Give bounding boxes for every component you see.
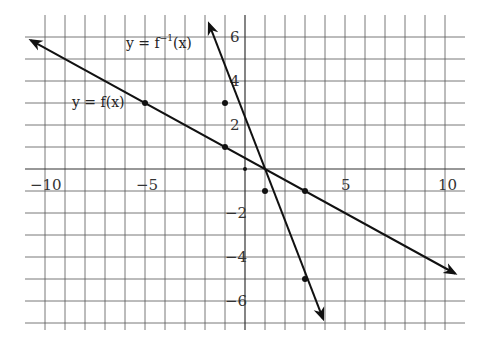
data-point xyxy=(142,100,148,106)
data-point xyxy=(302,276,308,282)
f-line xyxy=(31,40,455,273)
y-tick-label: 2 xyxy=(230,116,240,134)
x-tick-label: 5 xyxy=(341,176,351,194)
y-tick-label: −4 xyxy=(225,248,247,266)
data-point xyxy=(222,100,228,106)
data-point xyxy=(302,188,308,194)
f-label: y = f(x) xyxy=(71,94,125,110)
x-tick-label: 10 xyxy=(438,176,457,194)
data-point xyxy=(243,167,247,171)
data-point xyxy=(222,144,228,150)
y-tick-label: −6 xyxy=(225,292,247,310)
coordinate-plane: −10 −5 5 10 6 4 2 −2 −4 −6 y = f(x) y = … xyxy=(0,0,485,343)
data-point xyxy=(262,188,268,194)
x-tick-label: −5 xyxy=(136,176,158,194)
y-tick-label: 6 xyxy=(230,28,240,46)
f-inverse-label: y = f−1(x) xyxy=(125,33,192,51)
y-tick-label: −2 xyxy=(225,204,247,222)
f-inverse-line xyxy=(209,24,323,319)
x-tick-label: −10 xyxy=(30,176,62,194)
